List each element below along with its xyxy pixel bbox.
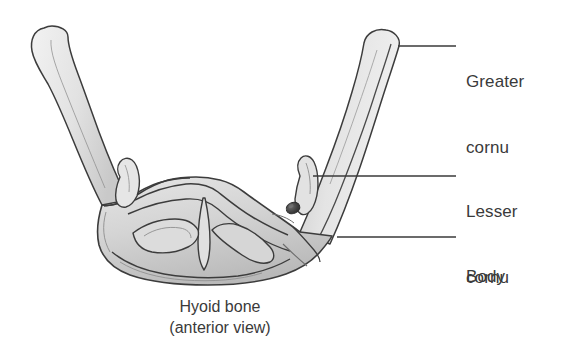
hyoid-bone-figure: Greater cornu Lesser cornu Body Hyoid bo… — [0, 0, 566, 362]
label-greater-cornu-line1: Greater — [466, 71, 524, 93]
label-greater-cornu-line2: cornu — [466, 137, 524, 159]
label-lesser-cornu-line1: Lesser — [466, 201, 518, 223]
bone-shape-group — [32, 26, 400, 285]
label-body-line1: Body — [466, 266, 505, 288]
label-body: Body — [466, 222, 505, 332]
right-greater-cornu — [300, 30, 399, 244]
figure-caption: Hyoid bone (anterior view) — [0, 296, 440, 338]
left-greater-cornu — [32, 26, 129, 205]
